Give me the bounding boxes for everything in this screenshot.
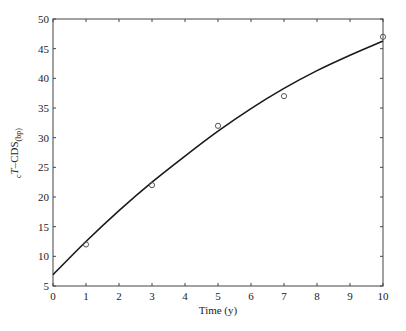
- x-tick-label: 6: [248, 290, 254, 302]
- x-tick-label: 8: [314, 290, 320, 302]
- data-point-marker: [215, 123, 220, 128]
- y-tick-label: 25: [38, 161, 50, 173]
- y-tick-label: 40: [38, 72, 50, 84]
- data-points: [83, 34, 385, 247]
- x-tick-label: 4: [182, 290, 188, 302]
- y-axis-ticks: 5101520253035404550: [38, 13, 383, 292]
- data-point-marker: [281, 94, 286, 99]
- ylabel-rest: –CDS: [8, 141, 20, 169]
- plot-frame: [53, 19, 383, 286]
- data-point-marker: [149, 183, 154, 188]
- y-tick-label: 5: [44, 280, 50, 292]
- data-point-marker: [83, 242, 88, 247]
- svg-text:cT–CDS(bp): cT–CDS(bp): [8, 128, 23, 178]
- x-tick-label: 10: [378, 290, 390, 302]
- chart: 012345678910 5101520253035404550 Time (y…: [0, 0, 406, 331]
- x-tick-label: 0: [50, 290, 56, 302]
- x-axis-title: Time (y): [199, 304, 238, 317]
- x-tick-label: 9: [347, 290, 353, 302]
- x-tick-label: 1: [83, 290, 89, 302]
- x-tick-label: 7: [281, 290, 287, 302]
- x-axis-ticks: 012345678910: [50, 19, 389, 302]
- y-tick-label: 50: [38, 13, 50, 25]
- ylabel-sub: (bp): [14, 128, 23, 142]
- y-tick-label: 45: [38, 43, 50, 55]
- y-tick-label: 30: [38, 132, 50, 144]
- x-tick-label: 3: [149, 290, 155, 302]
- y-tick-label: 10: [38, 250, 50, 262]
- y-tick-label: 35: [38, 102, 50, 114]
- fitted-curve: [53, 41, 383, 275]
- x-tick-label: 2: [116, 290, 122, 302]
- y-axis-title: cT–CDS(bp): [8, 128, 23, 178]
- y-tick-label: 20: [38, 191, 50, 203]
- y-tick-label: 15: [38, 221, 50, 233]
- x-tick-label: 5: [215, 290, 221, 302]
